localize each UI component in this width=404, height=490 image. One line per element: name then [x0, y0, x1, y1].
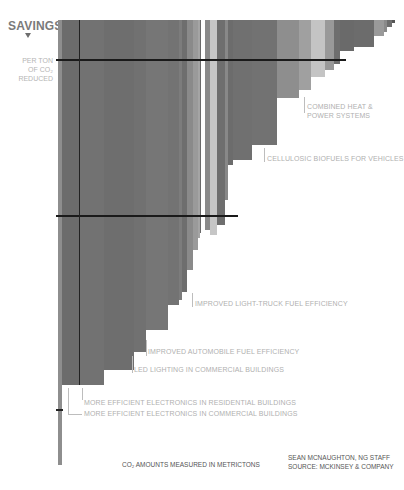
- reference-line-vertical: [79, 20, 80, 385]
- leader-line: [132, 356, 133, 373]
- credit: SEAN MCNAUGHTON, NG STAFF: [288, 454, 390, 461]
- chart-bar: [62, 20, 79, 385]
- unit-line-1: PER TON: [0, 56, 53, 65]
- unit-line-2: OF CO₂: [0, 65, 53, 74]
- chart-bar: [325, 20, 334, 70]
- chart-bar: [233, 20, 252, 160]
- chart-bar: [252, 20, 277, 145]
- label-line: POWER SYSTEMS: [307, 111, 373, 120]
- chart-bar: [146, 20, 168, 330]
- reference-line-horizontal: [56, 215, 238, 217]
- down-arrow-icon: [25, 33, 31, 38]
- label-commercial-electronics: MORE EFFICIENT ELECTRONICS IN COMMERCIAL…: [84, 410, 297, 417]
- chart-bar: [168, 20, 179, 305]
- chart-bar: [340, 20, 354, 51]
- label-light-truck: IMPROVED LIGHT-TRUCK FUEL EFFICIENCY: [195, 300, 348, 307]
- label-line: COMBINED HEAT &: [307, 102, 373, 111]
- chart-title: SAVINGS: [8, 19, 63, 33]
- chart-bar: [217, 20, 225, 225]
- label-residential-electronics: MORE EFFICIENT ELECTRONICS IN RESIDENTIA…: [84, 399, 296, 406]
- leader-line: [68, 414, 82, 415]
- chart-bar: [311, 20, 325, 77]
- leader-line: [304, 97, 305, 113]
- chart-bar: [392, 20, 395, 23]
- y-axis-unit-label: PER TON OF CO₂ REDUCED: [0, 56, 53, 83]
- source: SOURCE: MCKINSEY & COMPANY: [288, 463, 394, 470]
- chart-bar: [134, 20, 146, 352]
- unit-line-3: REDUCED: [0, 74, 53, 83]
- label-led-lighting: LED LIGHTING IN COMMERCIAL BUILDINGS: [134, 366, 284, 373]
- chart-bar: [299, 20, 311, 90]
- leader-line: [192, 293, 193, 307]
- chart-bar: [79, 20, 104, 385]
- reference-line-horizontal: [56, 59, 346, 61]
- label-automobile: IMPROVED AUTOMOBILE FUEL EFFICIENCY: [148, 348, 299, 355]
- chart-bar: [104, 20, 134, 370]
- chart-bar: [200, 20, 201, 233]
- label-combined-heat-power: COMBINED HEAT & POWER SYSTEMS: [307, 102, 373, 120]
- label-cellulosic-biofuels: CELLULOSIC BIOFUELS FOR VEHICLES: [267, 155, 404, 162]
- chart-bar: [210, 20, 217, 235]
- measure-note: CO₂ AMOUNTS MEASURED IN METRICTONS: [122, 461, 260, 468]
- leader-line: [146, 340, 147, 356]
- leader-line: [264, 148, 265, 162]
- chart-bar: [374, 20, 384, 36]
- leader-line: [68, 388, 69, 414]
- leader-line: [82, 388, 83, 400]
- axis-tick: [56, 409, 63, 411]
- chart-bar: [354, 20, 374, 47]
